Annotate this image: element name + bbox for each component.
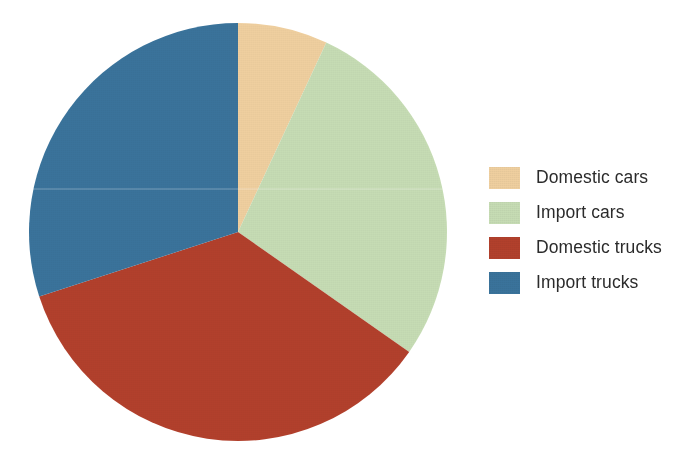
legend-item-label: Import trucks: [536, 274, 638, 292]
legend-color-swatch: [489, 167, 520, 189]
legend-color-swatch: [489, 237, 520, 259]
legend-color-swatch: [489, 272, 520, 294]
legend-item-label: Import cars: [536, 204, 625, 222]
paper-grain-texture: [489, 272, 520, 294]
paper-grain-texture: [489, 167, 520, 189]
legend-item-domestic-cars[interactable]: Domestic cars: [489, 160, 679, 195]
pie-chart-figure: Domestic carsImport carsDomestic trucksI…: [0, 0, 688, 462]
pie-slice-group: [29, 23, 447, 441]
chart-legend: Domestic carsImport carsDomestic trucksI…: [489, 160, 679, 300]
pie-chart: [26, 20, 450, 444]
paper-grain-texture: [489, 237, 520, 259]
legend-item-domestic-trucks[interactable]: Domestic trucks: [489, 230, 679, 265]
legend-color-swatch: [489, 202, 520, 224]
legend-item-label: Domestic trucks: [536, 239, 662, 257]
pie-svg: [26, 20, 450, 444]
legend-item-import-cars[interactable]: Import cars: [489, 195, 679, 230]
paper-grain-texture: [489, 202, 520, 224]
legend-item-import-trucks[interactable]: Import trucks: [489, 265, 679, 300]
legend-item-label: Domestic cars: [536, 169, 648, 187]
